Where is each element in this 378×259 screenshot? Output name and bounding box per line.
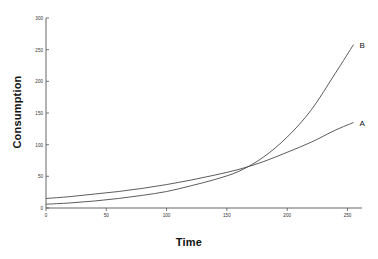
x-tick-label-150: 150 [223,213,231,218]
y-tick-label-250: 250 [35,48,43,53]
series-line-a [46,123,354,199]
y-tick-label-150: 150 [35,111,43,116]
y-tick-label-100: 100 [35,143,43,148]
y-tick-label-200: 200 [35,79,43,84]
x-tick-label-100: 100 [163,213,171,218]
x-tick-label-250: 250 [344,213,352,218]
chart-figure: 0 50 100 150 200 250 300 0 50 100 150 20… [0,0,378,259]
y-axis-title: Consumption [11,75,23,148]
y-axis-title-wrapper: Consumption [7,52,25,172]
y-tick-label-300: 300 [35,16,43,21]
x-tick-label-200: 200 [283,213,291,218]
x-tick-label-0: 0 [45,213,48,218]
series-label-b: B [360,41,365,50]
x-tick-label-50: 50 [104,213,110,218]
y-tick-label-50: 50 [38,174,44,179]
y-tick-label-0: 0 [40,206,43,211]
series-label-a: A [360,119,366,128]
x-axis-title: Time [0,236,378,248]
chart-plot-area: 0 50 100 150 200 250 300 0 50 100 150 20… [0,0,378,259]
series-line-b [46,45,354,205]
